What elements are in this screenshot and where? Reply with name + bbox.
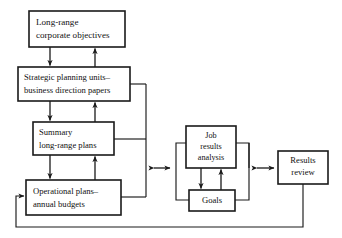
node-label-line: review: [291, 167, 315, 177]
edge-job-goals-right-bracket: [235, 143, 249, 200]
node-label-line: Results: [290, 155, 316, 165]
node-label-line: analysis: [198, 153, 224, 162]
node-results-review[interactable]: Results review: [278, 151, 328, 184]
flow-diagram-root: Long-range corporate objectives Strategi…: [0, 0, 342, 238]
node-label-line: Operational plans–: [33, 186, 99, 196]
node-strategic-planning-units[interactable]: Strategic planning units– business direc…: [18, 67, 130, 101]
node-label-line: results: [200, 142, 221, 151]
node-label-line: corporate objectives: [36, 30, 110, 40]
node-label-line: business direction papers: [24, 85, 111, 95]
node-label-line: annual budgets: [33, 199, 85, 209]
node-goals[interactable]: Goals: [189, 190, 235, 211]
node-operational-plans-annual-budgets[interactable]: Operational plans– annual budgets: [26, 180, 121, 215]
node-job-results-analysis[interactable]: Job results analysis: [186, 126, 236, 168]
node-label-line: Summary: [39, 127, 73, 137]
node-label-line: Strategic planning units–: [24, 72, 111, 82]
node-label-line: long-range plans: [39, 140, 97, 150]
node-summary-long-range-plans[interactable]: Summary long-range plans: [33, 122, 114, 155]
node-label-line: Job: [205, 131, 216, 140]
diagram-canvas: Long-range corporate objectives Strategi…: [0, 0, 342, 238]
node-label-line: Goals: [202, 195, 223, 205]
node-label-line: Long-range: [36, 17, 78, 27]
node-long-range-corporate-objectives[interactable]: Long-range corporate objectives: [29, 11, 125, 47]
